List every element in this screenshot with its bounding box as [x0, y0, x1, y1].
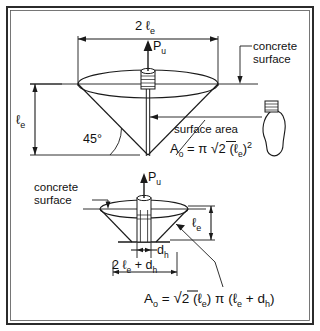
- top-formula-radicand: 2: [219, 141, 226, 156]
- bottom-width-label-plus: + d: [135, 258, 153, 272]
- bottom-depth-label-sub: e: [196, 223, 201, 233]
- top-formula-lhs: A: [170, 141, 179, 156]
- surface-area-label: surface area: [174, 123, 239, 135]
- bottom-load-label-sub: u: [156, 177, 161, 187]
- head-diameter-label-sub: h: [164, 250, 169, 260]
- diagram-canvas: 2 ℓe concrete surface: [0, 0, 320, 331]
- anchor-bolt-head: [141, 68, 155, 89]
- bottom-load-label-main: P: [148, 170, 156, 184]
- top-formula-exponent: 2: [247, 140, 252, 150]
- top-load-label-sub: u: [161, 46, 166, 56]
- bottom-formula-eq: =: [162, 291, 170, 306]
- bottom-concrete-surface-label-line2: surface: [34, 194, 72, 206]
- top-width-label-sub: e: [150, 26, 155, 36]
- top-formula-eq: =: [187, 141, 195, 156]
- bottom-formula-dh: d: [257, 291, 265, 306]
- bottom-width-label-a: 2 ℓ: [112, 258, 126, 272]
- bottom-width-label-b-sub: h: [152, 265, 157, 275]
- bottom-bolt-body: [137, 198, 151, 242]
- top-concrete-surface-label-line2: surface: [253, 53, 291, 65]
- top-depth-label-sub: e: [20, 120, 25, 130]
- bottom-anchor-bolt: [137, 195, 151, 242]
- head-diameter-label-main: d: [157, 243, 164, 257]
- technical-diagram-figure: 2 ℓe concrete surface: [0, 0, 320, 331]
- top-load-label-main: P: [153, 39, 161, 53]
- angle-label-45: 45°: [83, 132, 102, 146]
- top-concrete-surface-label-line1: concrete: [253, 40, 297, 52]
- bottom-formula-pi: π: [215, 291, 224, 306]
- top-width-label-main: 2 ℓ: [135, 18, 151, 33]
- bottom-formula-plus: +: [246, 291, 254, 306]
- bottom-concrete-surface-label-line1: concrete: [34, 181, 78, 193]
- top-formula-pi: π: [198, 141, 207, 156]
- bottom-formula-lhs: A: [144, 291, 153, 306]
- bottom-formula-radicand: 2: [182, 291, 190, 306]
